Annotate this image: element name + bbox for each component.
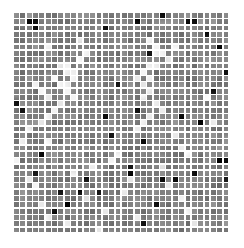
heatmap-cell [224, 76, 229, 81]
heatmap-cell [211, 133, 216, 138]
heatmap-cell [20, 146, 25, 151]
heatmap-cell [58, 82, 63, 87]
heatmap-cell [192, 221, 197, 226]
heatmap-cell [109, 26, 114, 31]
heatmap-cell [90, 32, 95, 37]
heatmap-cell [103, 120, 108, 125]
heatmap-cell [122, 13, 127, 18]
heatmap-cell [109, 196, 114, 201]
heatmap-cell [154, 108, 159, 113]
heatmap-cell [128, 146, 133, 151]
heatmap-cell [211, 38, 216, 43]
heatmap-cell [46, 70, 51, 75]
heatmap-cell [58, 76, 63, 81]
heatmap-cell [186, 221, 191, 226]
heatmap-cell [78, 152, 83, 157]
heatmap-cell [154, 19, 159, 24]
heatmap-cell [205, 19, 210, 24]
heatmap-cell [46, 76, 51, 81]
heatmap-cell [116, 127, 121, 132]
heatmap-cell [147, 76, 152, 81]
heatmap-cell [211, 177, 216, 182]
heatmap-cell [160, 57, 165, 62]
heatmap-cell [78, 114, 83, 119]
heatmap-cell [90, 64, 95, 69]
heatmap-cell [84, 51, 89, 56]
heatmap-cell [211, 95, 216, 100]
heatmap-cell [166, 152, 171, 157]
heatmap-cell [217, 177, 222, 182]
heatmap-cell [14, 64, 19, 69]
heatmap-cell [173, 32, 178, 37]
heatmap-cell [160, 38, 165, 43]
heatmap-cell [198, 139, 203, 144]
heatmap-cell [128, 114, 133, 119]
heatmap-cell [84, 101, 89, 106]
heatmap-cell [39, 76, 44, 81]
heatmap-cell [103, 215, 108, 220]
heatmap-cell [211, 228, 216, 233]
heatmap-cell [46, 177, 51, 182]
heatmap-cell [20, 108, 25, 113]
heatmap-cell [147, 158, 152, 163]
heatmap-cell [27, 221, 32, 226]
heatmap-cell [14, 26, 19, 31]
heatmap-cell [122, 133, 127, 138]
heatmap-cell [20, 228, 25, 233]
heatmap-cell [27, 51, 32, 56]
heatmap-cell [154, 215, 159, 220]
heatmap-cell [179, 82, 184, 87]
heatmap-cell [135, 114, 140, 119]
heatmap-cell [211, 108, 216, 113]
heatmap-cell [90, 215, 95, 220]
heatmap-cell [211, 89, 216, 94]
heatmap-cell [20, 190, 25, 195]
heatmap-cell [33, 32, 38, 37]
heatmap-cell [33, 190, 38, 195]
heatmap-cell [205, 196, 210, 201]
heatmap-cell [39, 196, 44, 201]
heatmap-cell [90, 51, 95, 56]
heatmap-cell [78, 196, 83, 201]
heatmap-cell [20, 221, 25, 226]
heatmap-cell [109, 209, 114, 214]
heatmap-cell [39, 51, 44, 56]
heatmap-cell [46, 89, 51, 94]
heatmap-cell [46, 139, 51, 144]
heatmap-cell [135, 19, 140, 24]
heatmap-cell [141, 158, 146, 163]
heatmap-cell [103, 127, 108, 132]
heatmap-cell [154, 139, 159, 144]
heatmap-cell [192, 196, 197, 201]
heatmap-cell [84, 165, 89, 170]
heatmap-cell [205, 32, 210, 37]
heatmap-cell [65, 45, 70, 50]
heatmap-cell [33, 139, 38, 144]
heatmap-cell [135, 152, 140, 157]
heatmap-cell [128, 13, 133, 18]
heatmap-cell [97, 202, 102, 207]
heatmap-cell [141, 196, 146, 201]
heatmap-cell [192, 202, 197, 207]
heatmap-cell [20, 13, 25, 18]
heatmap-cell [14, 127, 19, 132]
heatmap-cell [65, 64, 70, 69]
heatmap-cell [39, 95, 44, 100]
heatmap-cell [166, 228, 171, 233]
heatmap-cell [103, 158, 108, 163]
heatmap-cell [90, 133, 95, 138]
heatmap-cell [20, 51, 25, 56]
heatmap-cell [147, 177, 152, 182]
heatmap-cell [147, 38, 152, 43]
heatmap-cell [46, 228, 51, 233]
heatmap-cell [39, 45, 44, 50]
heatmap-cell [78, 146, 83, 151]
heatmap-cell [160, 114, 165, 119]
heatmap-cell [135, 221, 140, 226]
heatmap-cell [33, 89, 38, 94]
heatmap-cell [27, 19, 32, 24]
heatmap-cell [186, 133, 191, 138]
heatmap-cell [20, 95, 25, 100]
heatmap-cell [217, 95, 222, 100]
heatmap-cell [116, 19, 121, 24]
